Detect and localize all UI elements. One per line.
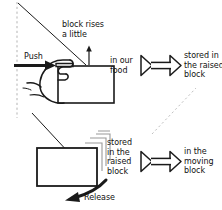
stored-in-raised-block-label-top: stored in the raised block [184, 51, 222, 80]
double-triangle-energy-arrow-icon-bottom [141, 152, 181, 172]
release-label: Release [84, 193, 115, 203]
arrow-right-icon [14, 61, 56, 71]
block-rises-label: block rises a little [62, 20, 104, 39]
right-dashed-guide [152, 88, 196, 134]
diagram-canvas [0, 0, 222, 210]
double-triangle-energy-arrow-icon-top [141, 56, 181, 76]
block-rectangle-icon-bottom [37, 148, 97, 186]
arrow-up-icon [86, 46, 92, 66]
stored-in-raised-block-label-bottom: stored in the raised block [107, 138, 132, 176]
energy-transfer-diagram: Push block rises a little in our food st… [0, 0, 222, 210]
in-our-food-label: in our food [110, 56, 133, 75]
push-label: Push [24, 52, 43, 62]
block-rectangle-icon-top [58, 66, 114, 103]
block-ledge [56, 64, 73, 67]
in-the-moving-block-label: in the moving block [184, 147, 214, 176]
